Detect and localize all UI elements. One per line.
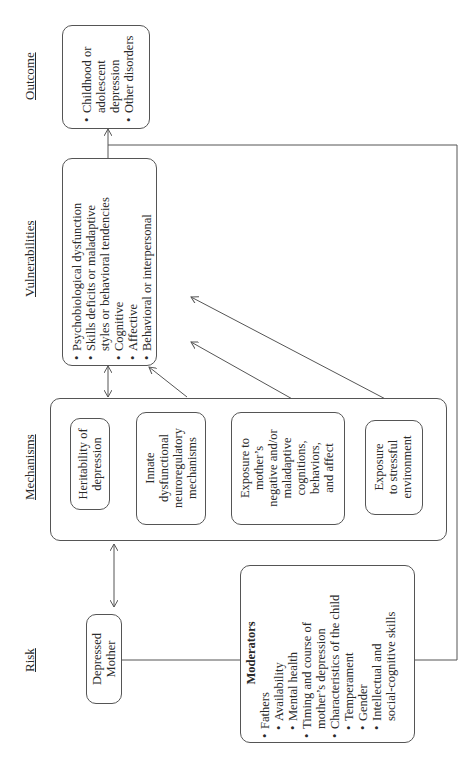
moderators-list: Moderators Fathers Availability Mental h… [244,568,398,738]
moderator-item: Fathers [258,568,272,738]
moderators-title: Moderators [244,568,258,738]
depressed-mother-text: Depressed Mother [90,618,118,700]
vulnerability-item: Affective [126,160,140,360]
moderator-item: Temperament [342,568,356,738]
outcome-item: depression [108,26,122,122]
arrow-innate-to-vulnerabilities [149,367,187,397]
moderator-item: Intellectual and [370,568,384,738]
vulnerability-item: Skills deficits or maladaptive [84,160,98,360]
outcome-item: Childhood or [80,26,94,122]
exposure-mother-text: Exposure to mother’s negative and/or mal… [238,418,336,518]
moderator-item: Availability [272,568,286,738]
exposure-stress-text: Exposure to stressful environment [372,424,414,510]
header-mechanisms: Mechanisms [22,434,38,500]
moderator-item: Gender [356,568,370,738]
outcome-list: Childhood or adolescent depression Other… [80,26,136,122]
vulnerability-item: Cognitive [112,160,126,360]
moderator-item: mother’s depression [314,568,328,738]
vulnerability-item: Psychobiological dysfunction [70,160,84,360]
moderator-item: Timing and course of [300,568,314,738]
header-outcome: Outcome [22,52,38,100]
arrow-exposure-stress-vulnerabilities [191,297,395,404]
header-risk: Risk [22,648,38,672]
outcome-item: Other disorders [122,26,136,122]
arrow-exposure-mother-vulnerabilities [191,342,303,405]
vulnerability-item: styles or behavioral tendencies [98,160,112,360]
innate-text: Innate dysfunctional neuroregulatory mec… [143,418,199,518]
moderator-item: Characteristics of the child [328,568,342,738]
moderator-item: Mental health [286,568,300,738]
moderator-item: social-cognitive skills [384,568,398,738]
heritability-text: Heritability of depression [76,422,104,506]
header-vulnerabilities: Vulnerabilities [22,221,38,297]
vulnerabilities-list: Psychobiological dysfunction Skills defi… [70,160,154,360]
outcome-item: adolescent [94,26,108,122]
vulnerability-item: Behavioral or interpersonal [140,160,154,360]
